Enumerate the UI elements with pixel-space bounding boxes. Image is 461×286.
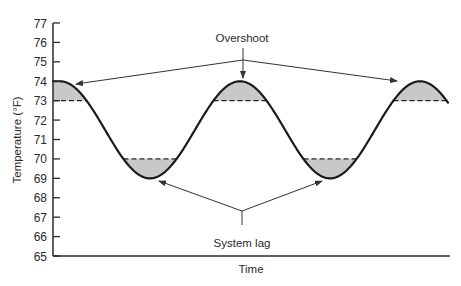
arrow-icon xyxy=(242,181,322,211)
overshoot-arrows xyxy=(76,48,397,84)
y-tick-label: 69 xyxy=(34,172,48,186)
y-tick-label: 70 xyxy=(34,152,48,166)
axes xyxy=(53,23,450,256)
y-axis-ticks: 65666768697071727374757677 xyxy=(34,17,60,264)
arrow-icon xyxy=(243,60,397,81)
y-tick-label: 76 xyxy=(34,36,48,50)
y-tick-label: 71 xyxy=(34,133,48,147)
y-tick-label: 77 xyxy=(34,17,48,31)
y-tick-label: 72 xyxy=(34,114,48,128)
y-tick-label: 65 xyxy=(34,250,48,264)
chart-canvas: 65666768697071727374757677 Temperature (… xyxy=(0,0,461,286)
system-lag-arrows xyxy=(159,181,322,225)
x-axis-title: Time xyxy=(238,263,263,275)
system-lag-label: System lag xyxy=(214,237,271,249)
y-tick-label: 73 xyxy=(34,94,48,108)
y-tick-label: 74 xyxy=(34,75,48,89)
y-axis-title: Temperature (°F) xyxy=(11,96,23,183)
y-tick-label: 68 xyxy=(34,191,48,205)
y-tick-label: 75 xyxy=(34,55,48,69)
arrow-icon xyxy=(76,60,243,84)
overshoot-label: Overshoot xyxy=(215,32,269,44)
y-tick-label: 66 xyxy=(34,230,48,244)
arrow-icon xyxy=(159,181,242,211)
y-tick-label: 67 xyxy=(34,211,48,225)
